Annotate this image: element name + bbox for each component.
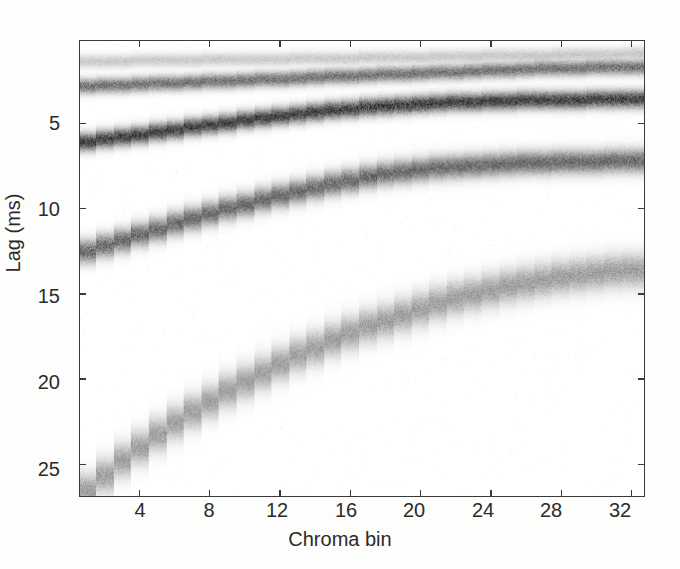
xtick-label-32: 32 (609, 500, 631, 520)
xtick-mark-top-4 (139, 40, 140, 47)
ytick-label-20: 20 (38, 372, 60, 392)
xtick-label-20: 20 (403, 500, 425, 520)
xtick-mark-24 (490, 490, 491, 497)
ytick-mark-5 (79, 123, 86, 124)
ytick-mark-right-5 (638, 123, 645, 124)
xtick-label-28: 28 (540, 500, 562, 520)
ytick-mark-25 (79, 464, 86, 465)
x-axis-title: Chroma bin (0, 528, 680, 551)
ytick-label-15: 15 (38, 286, 60, 306)
xtick-mark-32 (631, 490, 632, 497)
xtick-label-12: 12 (266, 500, 288, 520)
xtick-mark-top-32 (631, 40, 632, 47)
xtick-mark-12 (279, 490, 280, 497)
xtick-mark-20 (420, 490, 421, 497)
ytick-mark-15 (79, 293, 86, 294)
plot-area (79, 40, 645, 497)
xtick-mark-top-16 (350, 40, 351, 47)
ytick-mark-right-25 (638, 464, 645, 465)
xtick-label-4: 4 (134, 500, 145, 520)
y-axis-title: Lag (ms) (2, 194, 25, 273)
ytick-label-5: 5 (49, 113, 60, 133)
ytick-label-10: 10 (38, 199, 60, 219)
ytick-mark-right-10 (638, 208, 645, 209)
xtick-label-16: 16 (335, 500, 357, 520)
ytick-mark-right-20 (638, 378, 645, 379)
ytick-mark-10 (79, 208, 86, 209)
xtick-mark-top-28 (561, 40, 562, 47)
xtick-mark-4 (139, 490, 140, 497)
xtick-mark-top-24 (490, 40, 491, 47)
page-background: 5 10 15 20 25 4 8 12 16 20 24 28 32 Chro… (0, 0, 680, 569)
ytick-label-25: 25 (38, 459, 60, 479)
xtick-mark-top-12 (279, 40, 280, 47)
heatmap-image (80, 41, 644, 496)
ytick-mark-right-15 (638, 293, 645, 294)
xtick-mark-8 (209, 490, 210, 497)
xtick-mark-top-8 (209, 40, 210, 47)
xtick-label-8: 8 (203, 500, 214, 520)
xtick-mark-16 (350, 490, 351, 497)
xtick-mark-top-20 (420, 40, 421, 47)
xtick-mark-28 (561, 490, 562, 497)
xtick-label-24: 24 (472, 500, 494, 520)
figure-canvas: 5 10 15 20 25 4 8 12 16 20 24 28 32 Chro… (0, 0, 680, 569)
ytick-mark-20 (79, 378, 86, 379)
